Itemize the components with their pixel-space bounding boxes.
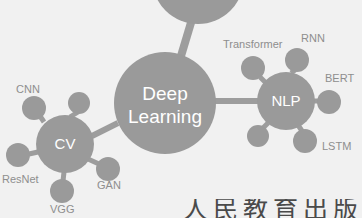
node-rnn[interactable] xyxy=(285,48,309,72)
cropped-caption-text: 人民教育出版 xyxy=(183,199,362,218)
node-label-deep-learning-line2: Learning xyxy=(128,106,202,127)
leaf-label-cnn: CNN xyxy=(16,83,40,95)
node-nlp-lower[interactable] xyxy=(247,125,269,147)
partial-node-top[interactable] xyxy=(152,0,244,24)
diagram-canvas: Deep Learning CV NLP CNN ResNet VGG GAN … xyxy=(0,0,362,218)
node-vgg[interactable] xyxy=(50,179,74,203)
knowledge-graph: Deep Learning CV NLP CNN ResNet VGG GAN … xyxy=(0,0,362,218)
node-label-cv: CV xyxy=(55,135,76,152)
node-cnn[interactable] xyxy=(22,96,46,120)
leaf-label-vgg: VGG xyxy=(50,203,74,215)
node-label-nlp: NLP xyxy=(271,92,300,109)
node-resnet[interactable] xyxy=(6,143,30,167)
leaf-label-transformer: Transformer xyxy=(223,38,283,50)
node-label-deep-learning-line1: Deep xyxy=(142,83,187,104)
edge-cv-to-gan xyxy=(88,159,99,164)
edge-cv-to-resnet xyxy=(29,152,38,154)
node-lstm[interactable] xyxy=(293,129,317,153)
node-bert[interactable] xyxy=(317,90,341,114)
leaf-label-rnn: RNN xyxy=(301,32,325,44)
leaf-label-bert: BERT xyxy=(325,72,354,84)
leaf-label-lstm: LSTM xyxy=(322,140,351,152)
node-gan[interactable] xyxy=(96,157,120,181)
leaf-label-resnet: ResNet xyxy=(2,173,39,185)
node-cv-upper[interactable] xyxy=(68,92,90,114)
cropped-caption: 人民教育出版 xyxy=(183,199,362,218)
edge-deep-learning-to-cv xyxy=(92,123,118,136)
leaf-label-gan: GAN xyxy=(97,179,121,191)
node-transformer[interactable] xyxy=(241,56,265,80)
